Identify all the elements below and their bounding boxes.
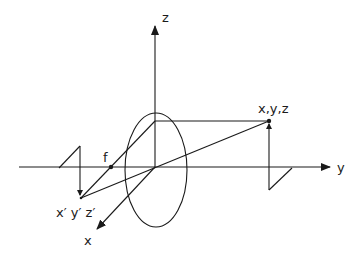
object-point [267, 119, 271, 123]
ray-through-focus [81, 121, 155, 198]
ray-through-center [81, 121, 269, 198]
z-axis-label: z [162, 10, 169, 25]
image-point-label: x′ y′ z′ [56, 205, 95, 220]
y-axis-label: y [337, 160, 345, 175]
focal-point-label: f [103, 150, 108, 165]
image-point [80, 197, 83, 200]
image-depth-triangle [59, 146, 80, 168]
optics-diagram: z y x x,y,z f x′ y′ z′ [0, 0, 358, 255]
object-depth-triangle [269, 168, 292, 190]
x-axis-arrow [97, 167, 155, 229]
lens-ellipse [125, 113, 187, 227]
object-point-label: x,y,z [258, 101, 289, 116]
focal-point [109, 165, 113, 169]
x-axis-label: x [84, 233, 92, 248]
